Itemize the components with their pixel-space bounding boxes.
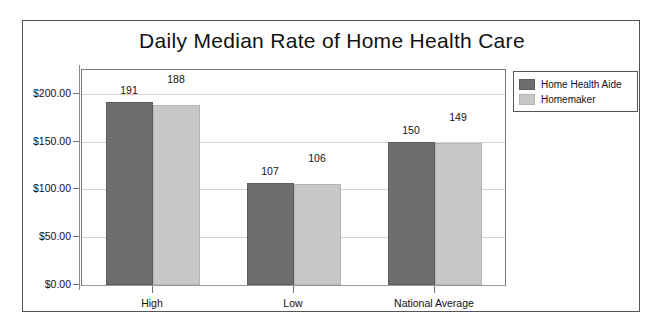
x-axis-tick-label: National Average bbox=[394, 297, 474, 309]
y-axis-tick-labels: $0.00$50.00$100.00$150.00$200.00 bbox=[23, 69, 79, 286]
bar bbox=[106, 102, 153, 285]
y-axis-tick-label: $150.00 bbox=[33, 135, 71, 147]
y-axis-tick-mark bbox=[73, 93, 79, 94]
legend-swatch-icon bbox=[519, 94, 535, 105]
y-axis-tick-mark bbox=[73, 236, 79, 237]
legend-label: Homemaker bbox=[541, 94, 595, 105]
legend-item[interactable]: Home Health Aide bbox=[519, 77, 632, 91]
bar-value-label: 150 bbox=[402, 124, 420, 136]
x-axis-tick-mark bbox=[152, 286, 153, 293]
bar bbox=[247, 183, 294, 285]
y-axis-tick-label: $50.00 bbox=[39, 230, 71, 242]
chart-legend: Home Health AideHomemaker bbox=[513, 71, 638, 112]
bar bbox=[294, 184, 341, 285]
y-axis-tick-mark bbox=[73, 188, 79, 189]
chart-title: Daily Median Rate of Home Health Care bbox=[23, 29, 641, 53]
x-axis-tick-label: High bbox=[141, 297, 163, 309]
y-axis-line bbox=[79, 65, 80, 290]
bar bbox=[153, 105, 200, 285]
x-axis-tick-label: Low bbox=[283, 297, 302, 309]
bar-value-label: 106 bbox=[308, 152, 326, 164]
bar bbox=[388, 142, 435, 285]
y-axis-tick-label: $0.00 bbox=[45, 278, 71, 290]
x-axis-tick-mark bbox=[434, 286, 435, 293]
x-axis-tick-labels: HighLowNational Average bbox=[81, 286, 506, 312]
y-axis-tick-label: $100.00 bbox=[33, 182, 71, 194]
bar-value-label: 188 bbox=[167, 73, 185, 85]
chart-frame: Daily Median Rate of Home Health Care $0… bbox=[22, 20, 640, 312]
legend-label: Home Health Aide bbox=[541, 79, 622, 90]
y-axis-tick-label: $200.00 bbox=[33, 87, 71, 99]
bar-value-label: 107 bbox=[261, 165, 279, 177]
bar-value-label: 149 bbox=[449, 111, 467, 123]
legend-swatch-icon bbox=[519, 79, 535, 90]
y-axis-tick-mark bbox=[73, 284, 79, 285]
plot-area: 191188107106150149 bbox=[81, 69, 506, 286]
bar bbox=[435, 143, 482, 285]
gridline bbox=[82, 94, 505, 95]
legend-item[interactable]: Homemaker bbox=[519, 92, 632, 106]
x-axis-tick-mark bbox=[293, 286, 294, 293]
y-axis-tick-mark bbox=[73, 141, 79, 142]
bar-value-label: 191 bbox=[120, 84, 138, 96]
